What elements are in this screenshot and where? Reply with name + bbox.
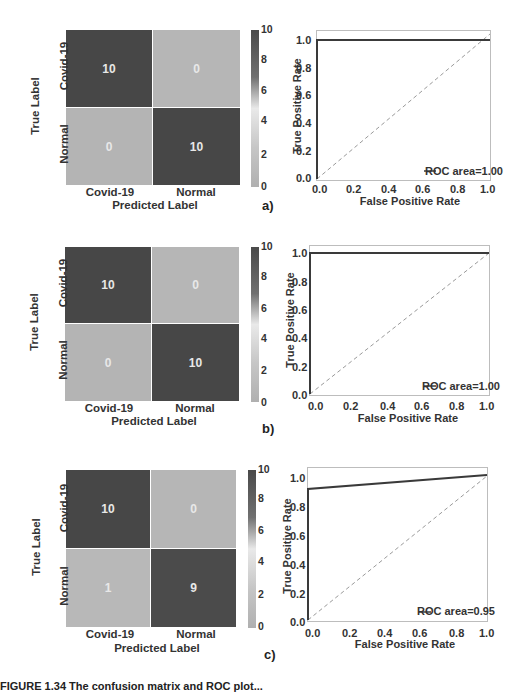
confusion-matrix-c: 10 0 1 9 xyxy=(66,470,236,627)
ytick-b: 0.0 xyxy=(292,389,307,401)
cbtick-a: 8 xyxy=(261,53,267,65)
roc-plot-c xyxy=(307,467,489,623)
cbtick-a: 2 xyxy=(261,148,267,160)
xlabel-b: Predicted Label xyxy=(104,415,204,427)
cbtick-c: 4 xyxy=(258,555,264,567)
cell-b-1-1: 10 xyxy=(152,324,239,401)
row-label-covid-a: Covid-19 xyxy=(58,36,70,96)
cell-a-1-0: 0 xyxy=(66,108,152,185)
cbtick-a: 6 xyxy=(261,84,267,96)
cbtick-a: 4 xyxy=(261,114,267,126)
roc-legend-b: ROC area=1.00 xyxy=(422,380,500,392)
cell-b-0-1: 0 xyxy=(152,247,239,323)
cbtick-b: 2 xyxy=(261,364,267,376)
colorbar-a xyxy=(251,30,259,187)
cbtick-b: 10 xyxy=(261,240,273,252)
xtick-a: 0.2 xyxy=(346,183,361,195)
row-label-normal-a: Normal xyxy=(58,114,70,174)
cbtick-b: 8 xyxy=(261,270,267,282)
cbtick-c: 8 xyxy=(258,492,264,504)
cell-a-0-1: 0 xyxy=(153,30,240,107)
col-label-normal-a: Normal xyxy=(166,186,226,198)
xtick-a: 0.8 xyxy=(450,183,465,195)
cell-c-0-1: 0 xyxy=(151,470,236,548)
panel-label-a: a) xyxy=(262,198,274,213)
xtick-b: 0.0 xyxy=(308,400,323,412)
ylabel-b: True Label xyxy=(28,282,40,362)
panel-label-c: c) xyxy=(264,647,276,662)
colorbar-b xyxy=(251,247,259,402)
cbtick-c: 6 xyxy=(258,524,264,536)
col-label-covid-b: Covid-19 xyxy=(79,402,139,414)
col-label-normal-b: Normal xyxy=(165,402,225,414)
cbtick-a: 0 xyxy=(261,180,267,192)
ytick-c: 0.0 xyxy=(290,616,305,628)
confusion-matrix-b: 10 0 0 10 xyxy=(65,247,239,401)
cell-a-1-1: 10 xyxy=(153,108,240,185)
xlabel-a: Predicted Label xyxy=(105,199,205,211)
cbtick-a: 10 xyxy=(261,23,273,35)
roc-ylabel-b: True Positive Rate xyxy=(284,260,296,380)
xtick-a: 1.0 xyxy=(480,183,495,195)
xtick-a: 0.4 xyxy=(381,183,396,195)
cell-b-1-0: 0 xyxy=(65,324,151,401)
roc-ylabel-c: True Positive Rate xyxy=(281,486,293,606)
row-label-normal-b: Normal xyxy=(57,330,69,390)
cbtick-c: 10 xyxy=(258,463,270,475)
xtick-a: 0.6 xyxy=(415,183,430,195)
cbtick-b: 0 xyxy=(261,396,267,408)
col-label-normal-c: Normal xyxy=(166,628,226,640)
roc-legend-c: ROC area=0.95 xyxy=(417,605,495,617)
xtick-a: 0.0 xyxy=(312,183,327,195)
roc-plot-b xyxy=(309,245,491,397)
ylabel-a: True Label xyxy=(29,66,41,146)
xtick-b: 0.4 xyxy=(380,400,395,412)
col-label-covid-a: Covid-19 xyxy=(80,186,140,198)
row-label-normal-c: Normal xyxy=(58,556,70,616)
cell-c-0-0: 10 xyxy=(66,470,150,548)
figure-caption: FIGURE 1.34 The confusion matrix and ROC… xyxy=(0,680,263,692)
xtick-c: 1.0 xyxy=(479,627,494,639)
xtick-b: 0.8 xyxy=(449,400,464,412)
roc-xlabel-a: False Positive Rate xyxy=(355,195,465,207)
roc-plot-a xyxy=(316,30,492,182)
roc-xlabel-c: False Positive Rate xyxy=(350,638,460,650)
xtick-b: 0.6 xyxy=(414,400,429,412)
ytick-a: 1.0 xyxy=(296,34,311,46)
panel-label-b: b) xyxy=(262,421,274,436)
xtick-c: 0.0 xyxy=(305,627,320,639)
ylabel-c: True Label xyxy=(30,507,42,587)
cell-a-0-0: 10 xyxy=(66,30,152,107)
confusion-matrix-a: 10 0 0 10 xyxy=(66,30,240,185)
cell-c-1-1: 9 xyxy=(151,549,236,627)
cbtick-b: 6 xyxy=(261,302,267,314)
cell-b-0-0: 10 xyxy=(65,247,151,323)
colorbar-c xyxy=(248,470,256,628)
xlabel-c: Predicted Label xyxy=(107,642,207,654)
roc-xlabel-b: False Positive Rate xyxy=(353,412,463,424)
row-label-covid-b: Covid-19 xyxy=(57,253,69,313)
cbtick-c: 0 xyxy=(258,620,264,632)
xtick-b: 1.0 xyxy=(479,400,494,412)
roc-ylabel-a: True Positive Rate xyxy=(291,46,303,166)
cbtick-b: 4 xyxy=(261,332,267,344)
xtick-b: 0.2 xyxy=(343,400,358,412)
col-label-covid-c: Covid-19 xyxy=(80,628,140,640)
roc-legend-a: ROC area=1.00 xyxy=(425,165,503,177)
cbtick-c: 2 xyxy=(258,588,264,600)
row-label-covid-c: Covid-19 xyxy=(58,478,70,538)
ytick-c: 1.0 xyxy=(290,472,305,484)
ytick-b: 1.0 xyxy=(292,247,307,259)
cell-c-1-0: 1 xyxy=(66,549,150,627)
ytick-a: 0.0 xyxy=(296,172,311,184)
